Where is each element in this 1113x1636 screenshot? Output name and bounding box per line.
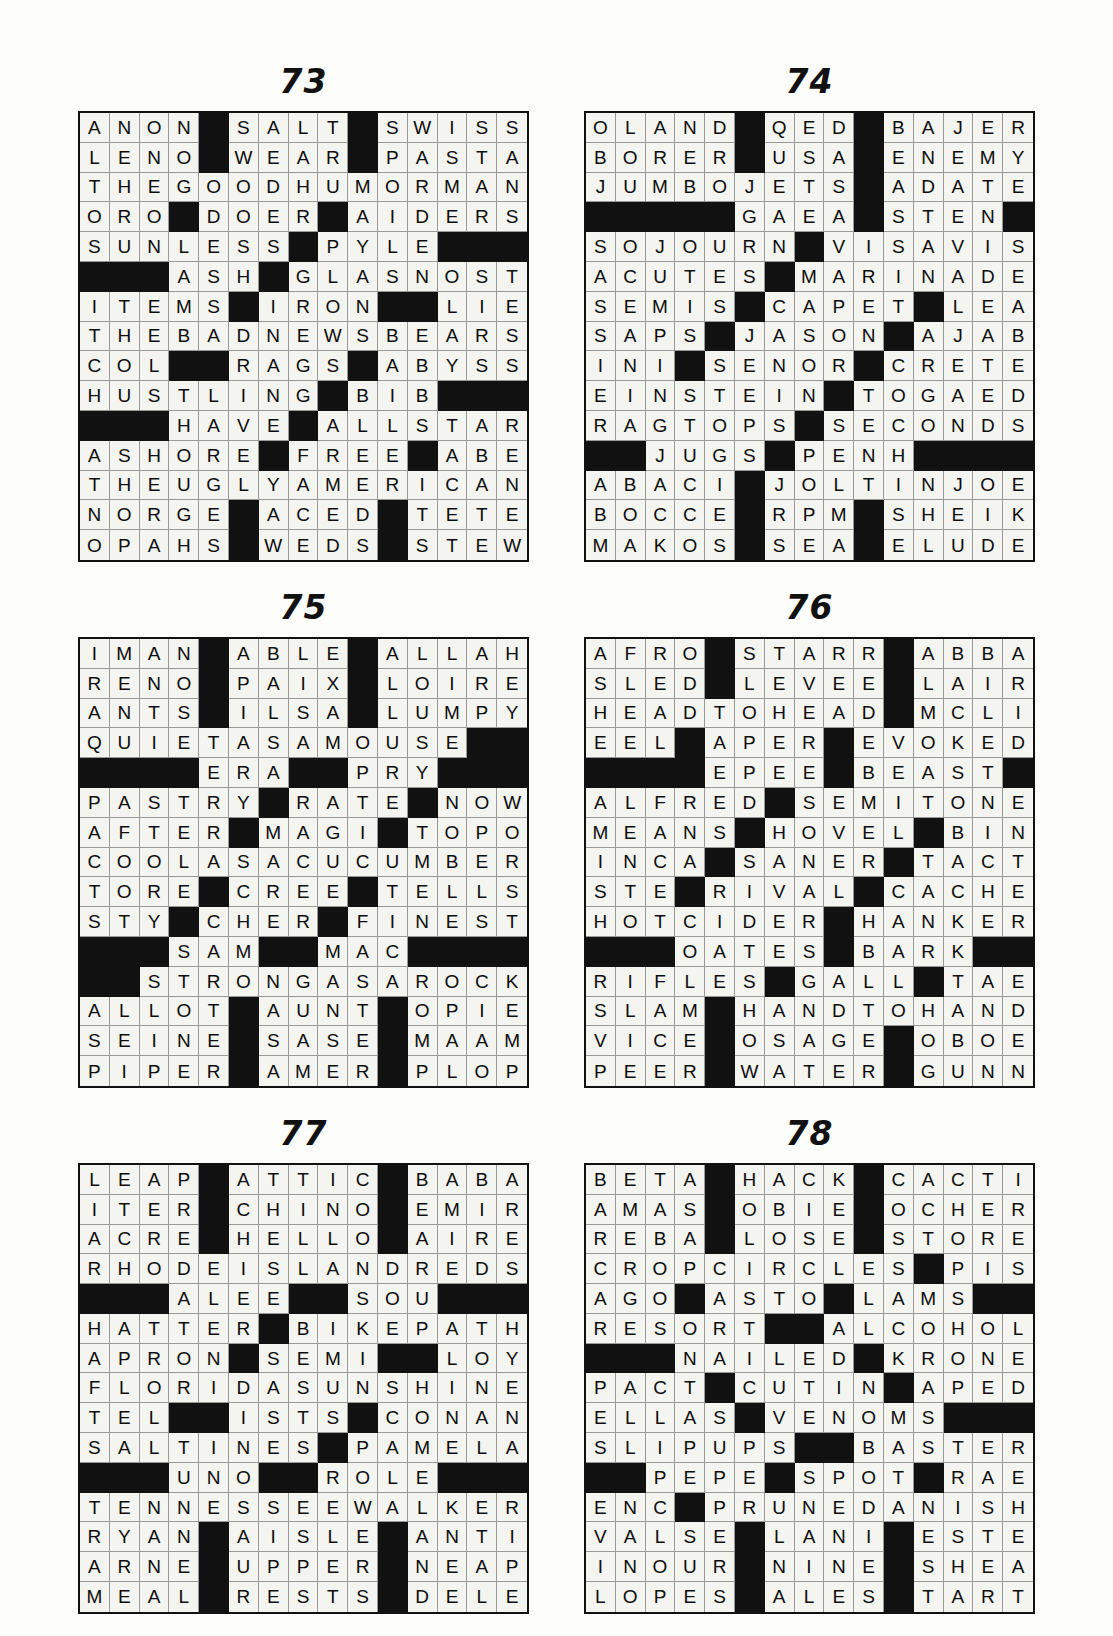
grid-letter-cell: B <box>1003 322 1033 352</box>
grid-letter-cell: A <box>497 143 527 173</box>
grid-letter-cell: T <box>80 173 110 203</box>
grid-letter-cell: R <box>586 411 616 441</box>
grid-letter-cell: E <box>408 232 438 262</box>
grid-letter-cell: L <box>1003 1314 1033 1344</box>
grid-letter-cell: F <box>616 639 646 669</box>
grid-block-cell <box>675 1493 705 1523</box>
grid-letter-cell: M <box>318 1344 348 1374</box>
grid-letter-cell: L <box>378 699 408 729</box>
grid-letter-cell: F <box>110 818 140 848</box>
grid-letter-cell: D <box>467 1254 497 1284</box>
grid-letter-cell: W <box>497 788 527 818</box>
grid-letter-cell: N <box>944 411 974 441</box>
grid-letter-cell: E <box>140 292 170 322</box>
grid-letter-cell: E <box>497 1373 527 1403</box>
grid-letter-cell: E <box>169 728 199 758</box>
grid-letter-cell: L <box>914 669 944 699</box>
grid-letter-cell: L <box>646 1522 676 1552</box>
grid-block-cell <box>259 1463 289 1493</box>
grid-letter-cell: G <box>824 1026 854 1056</box>
grid-block-cell <box>646 937 676 967</box>
grid-letter-cell: S <box>1003 232 1033 262</box>
crossword-grid-76[interactable]: AFROSTARRABBASLEDLEVEELAIRHEADTOHEADMCLI… <box>584 637 1035 1088</box>
grid-letter-cell: A <box>616 1522 646 1552</box>
grid-letter-cell: S <box>795 1225 825 1255</box>
crossword-grid-78[interactable]: BETAHACKCACTIAMASOBIEOCHERREBALOSESTOREC… <box>584 1163 1035 1614</box>
grid-letter-cell: T <box>199 997 229 1027</box>
grid-letter-cell: I <box>438 669 468 699</box>
grid-letter-cell: E <box>497 669 527 699</box>
grid-letter-cell: E <box>438 202 468 232</box>
grid-letter-cell: A <box>199 848 229 878</box>
grid-letter-cell: T <box>110 292 140 322</box>
grid-letter-cell: S <box>169 937 199 967</box>
grid-letter-cell: C <box>80 848 110 878</box>
grid-letter-cell: E <box>289 1493 319 1523</box>
crossword-grid-74[interactable]: OLANDQEDBAJERBORERUSAENEMYJUMBOJETSADATE… <box>584 111 1035 562</box>
grid-letter-cell: J <box>944 471 974 501</box>
grid-letter-cell: I <box>675 292 705 322</box>
grid-letter-cell: B <box>854 758 884 788</box>
grid-letter-cell: S <box>497 202 527 232</box>
grid-letter-cell: P <box>586 1056 616 1086</box>
grid-letter-cell: E <box>973 1552 1003 1582</box>
grid-letter-cell: I <box>467 997 497 1027</box>
crossword-grid-73[interactable]: ANONSALTSWISSLENOWEARPASTATHEGOODHUMORMA… <box>78 111 529 562</box>
grid-letter-cell: O <box>229 1463 259 1493</box>
grid-letter-cell: B <box>408 351 438 381</box>
grid-letter-cell: S <box>675 322 705 352</box>
grid-letter-cell: L <box>438 292 468 322</box>
grid-letter-cell: N <box>438 1403 468 1433</box>
crossword-grid-75[interactable]: IMANABLEALLAHRENOPAIXLOIREANTSILSALUMPYQ… <box>78 637 529 1088</box>
grid-block-cell <box>497 232 527 262</box>
grid-letter-cell: T <box>675 1373 705 1403</box>
grid-letter-cell: W <box>259 530 289 560</box>
grid-letter-cell: L <box>646 728 676 758</box>
puzzle-row-3: 77 LEAPATTICBABAITERCHINOEMIRACREHELLOAI… <box>0 1114 1113 1614</box>
grid-letter-cell: C <box>646 500 676 530</box>
puzzle-78: 78 BETAHACKCACTIAMASOBIEOCHERREBALOSESTO… <box>584 1114 1035 1614</box>
grid-letter-cell: V <box>586 1522 616 1552</box>
grid-block-cell <box>884 1026 914 1056</box>
grid-block-cell <box>854 173 884 203</box>
grid-letter-cell: E <box>973 1433 1003 1463</box>
grid-letter-cell: U <box>675 1552 705 1582</box>
grid-letter-cell: L <box>110 997 140 1027</box>
grid-letter-cell: S <box>318 351 348 381</box>
grid-letter-cell: E <box>586 381 616 411</box>
grid-letter-cell: A <box>467 1026 497 1056</box>
grid-letter-cell: I <box>259 1522 289 1552</box>
grid-letter-cell: A <box>705 1344 735 1374</box>
grid-letter-cell: G <box>795 967 825 997</box>
grid-letter-cell: L <box>735 669 765 699</box>
grid-letter-cell: P <box>348 758 378 788</box>
grid-block-cell <box>467 1463 497 1493</box>
grid-letter-cell: O <box>110 877 140 907</box>
grid-block-cell <box>408 441 438 471</box>
grid-block-cell <box>854 877 884 907</box>
grid-letter-cell: T <box>973 1165 1003 1195</box>
grid-letter-cell: I <box>824 1373 854 1403</box>
grid-block-cell <box>735 1582 765 1612</box>
grid-letter-cell: N <box>438 788 468 818</box>
grid-letter-cell: A <box>586 471 616 501</box>
grid-letter-cell: D <box>854 1493 884 1523</box>
grid-letter-cell: T <box>80 1493 110 1523</box>
grid-letter-cell: L <box>616 997 646 1027</box>
grid-letter-cell: E <box>944 202 974 232</box>
crossword-grid-77[interactable]: LEAPATTICBABAITERCHINOEMIRACREHELLOAIRER… <box>78 1163 529 1614</box>
grid-letter-cell: S <box>765 1026 795 1056</box>
grid-block-cell <box>675 202 705 232</box>
grid-letter-cell: F <box>646 967 676 997</box>
grid-letter-cell: L <box>169 232 199 262</box>
grid-letter-cell: I <box>467 1195 497 1225</box>
grid-letter-cell: E <box>616 1225 646 1255</box>
grid-letter-cell: E <box>675 1463 705 1493</box>
grid-block-cell <box>705 1165 735 1195</box>
grid-letter-cell: I <box>616 1026 646 1056</box>
grid-letter-cell: N <box>497 173 527 203</box>
grid-letter-cell: D <box>259 173 289 203</box>
grid-block-cell <box>199 1582 229 1612</box>
grid-letter-cell: O <box>675 1314 705 1344</box>
grid-letter-cell: I <box>884 262 914 292</box>
